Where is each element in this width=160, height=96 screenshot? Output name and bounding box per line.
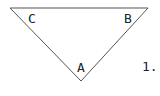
vertex-label-c: C (28, 11, 36, 26)
vertex-label-a: A (77, 60, 85, 75)
triangle-diagram: C B A 1. (0, 0, 160, 96)
vertex-label-b: B (124, 11, 132, 26)
figure-number: 1. (142, 59, 158, 74)
